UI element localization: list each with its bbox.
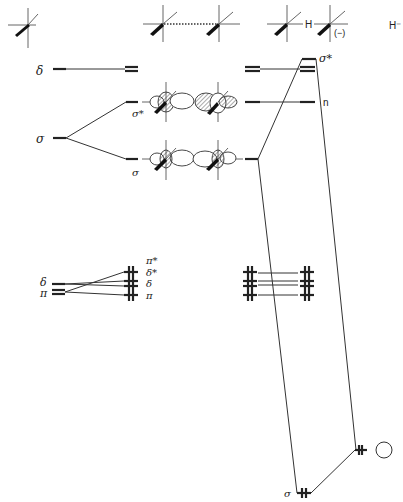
sigma-label-mid: σ — [132, 167, 140, 178]
charge-label: (−) — [334, 28, 345, 38]
fragment-3-icon: H (−) — [267, 5, 348, 42]
hydride-level — [355, 445, 367, 455]
n-label: n — [323, 97, 329, 108]
fragment-1-icon — [8, 8, 38, 48]
delta-label-left: δ — [36, 64, 43, 78]
fragment-2-icon — [143, 5, 240, 42]
sigma-label-left: σ — [36, 132, 45, 146]
bridge-h-label: H — [305, 19, 312, 30]
electron-pairs-left — [124, 266, 138, 301]
mo-diagram: H (−) H⁻ δ σ* σ σ* σ — [0, 0, 403, 502]
pi-label: π — [145, 290, 153, 301]
sigma-orbital-icon — [142, 140, 243, 180]
sigma-star-label-mid: σ* — [132, 108, 144, 119]
delta-label: δ — [146, 278, 152, 289]
sigma-star-orbital-icon — [142, 82, 237, 122]
pi-star-label: π* — [145, 255, 158, 266]
sigma-bottom-label: σ — [284, 488, 292, 499]
sigma-bonding-level — [297, 488, 311, 498]
hydride-label: H⁻ — [389, 20, 401, 31]
pi-label-low: π — [39, 287, 48, 300]
sigma-star-label-right: σ* — [319, 52, 333, 65]
delta-star-label: δ* — [146, 267, 157, 278]
hydride-s-orbital-icon — [376, 442, 392, 458]
electron-pairs-right — [243, 266, 314, 301]
